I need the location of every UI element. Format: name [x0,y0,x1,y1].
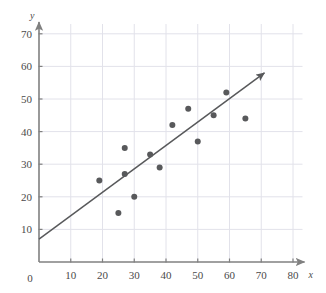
gridlines [39,24,303,262]
y-tick-label: 50 [21,93,33,105]
scatter-point [122,171,128,177]
scatter-point [195,138,201,144]
scatter-point [157,164,163,170]
y-tick-label: 30 [21,158,33,170]
y-tick-label: 70 [21,28,33,40]
scatter-point [147,151,153,157]
scatter-point [211,112,217,118]
scatter-point [185,106,191,112]
x-tick-label: 50 [192,269,204,281]
scatter-plot-figure: 1020304050607080102030405060700 xy [0,0,326,293]
y-tick-label: 10 [21,223,33,235]
x-tick-label: 40 [161,269,173,281]
y-tick-label: 20 [21,191,33,203]
origin-label: 0 [27,272,33,284]
x-tick-label: 70 [256,269,268,281]
y-axis-label: y [29,10,35,21]
axis-names: xy [29,10,314,280]
scatter-point [169,122,175,128]
chart-canvas: 1020304050607080102030405060700 xy [0,0,326,293]
scatter-point [122,145,128,151]
x-tick-label: 10 [65,269,77,281]
scatter-point [242,116,248,122]
x-axis-label: x [308,269,314,280]
x-tick-label: 20 [97,269,109,281]
x-tick-label: 60 [224,269,236,281]
scatter-point [115,210,121,216]
x-tick-label: 30 [129,269,141,281]
y-tick-label: 40 [21,126,33,138]
x-tick-label: 80 [288,269,300,281]
scatter-point [96,178,102,184]
scatter-point [131,194,137,200]
y-tick-label: 60 [21,60,33,72]
scatter-point [223,89,229,95]
